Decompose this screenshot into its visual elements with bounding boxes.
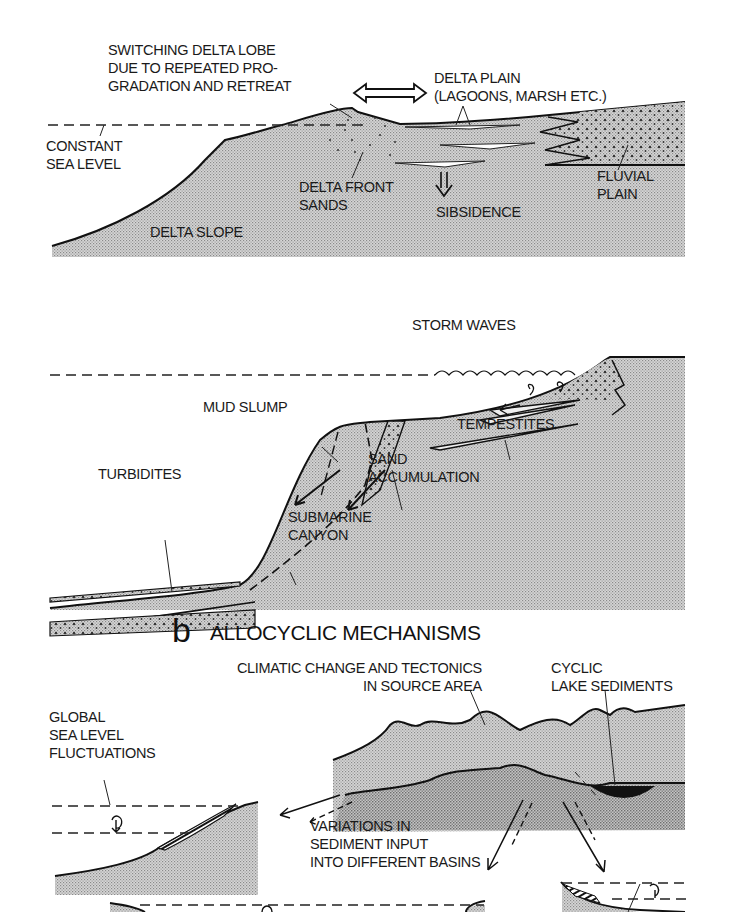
label-subsidence: SIBSIDENCE [436,203,521,221]
label-mud-slump: MUD SLUMP [203,398,287,416]
label-switching-delta-lobe: SWITCHING DELTA LOBE DUE TO REPEATED PRO… [108,41,291,95]
label-sand-accumulation: SAND ACCUMULATION [368,450,479,486]
storm-waves-icon [435,371,575,375]
double-headed-arrow-icon [354,84,426,102]
label-delta-plain: DELTA PLAIN (LAGOONS, MARSH ETC.) [434,69,607,105]
label-submarine-canyon: SUBMARINE CANYON [288,508,372,544]
label-cyclic-lake-sediments: CYCLIC LAKE SEDIMENTS [551,659,673,695]
label-tempestites: TEMPESTITES [457,415,554,433]
label-global-sea-level: GLOBAL SEA LEVEL FLUCTUATIONS [49,708,156,762]
panel-letter: b [172,612,191,648]
label-fluvial-plain: FLUVIAL PLAIN [597,167,654,203]
label-turbidites: TURBIDITES [98,465,181,483]
shelf-slope-panel [50,357,685,636]
label-delta-slope: DELTA SLOPE [150,223,243,241]
panel-title: ALLOCYCLIC MECHANISMS [210,620,481,646]
delta-panel [48,84,685,257]
label-constant-sea-level: CONSTANT SEA LEVEL [46,137,122,173]
label-sediment-input-variations: VARIATIONS IN SEDIMENT INPUT INTO DIFFER… [310,817,480,871]
sea-level-cycle-icon [112,816,122,832]
label-climatic-change: CLIMATIC CHANGE AND TECTONICS IN SOURCE … [162,659,482,695]
label-delta-front-sands: DELTA FRONT SANDS [299,178,393,214]
label-storm-waves: STORM WAVES [412,316,516,334]
